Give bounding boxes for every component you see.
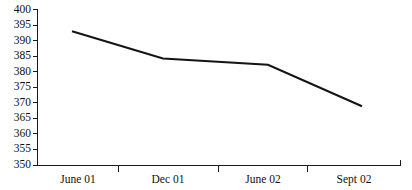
y-tick-label: 360 bbox=[14, 127, 32, 139]
y-tick-label: 385 bbox=[14, 49, 32, 61]
y-tick-label: 350 bbox=[14, 158, 32, 170]
y-tick-labels: 400 395 390 385 380 375 370 365 360 355 … bbox=[14, 3, 32, 170]
y-tick-label: 390 bbox=[14, 34, 32, 46]
y-tick-label: 370 bbox=[14, 96, 32, 108]
y-tick-label: 375 bbox=[14, 80, 32, 92]
y-tick-label: 400 bbox=[14, 3, 32, 15]
x-tick-label: Sept 02 bbox=[337, 173, 372, 186]
chart-canvas: 400 395 390 385 380 375 370 365 360 355 … bbox=[0, 0, 412, 190]
x-tick-label: Dec 01 bbox=[152, 173, 185, 185]
y-tick-label: 355 bbox=[14, 142, 32, 154]
y-tick-label: 380 bbox=[14, 65, 32, 77]
chart-background bbox=[0, 0, 412, 190]
x-tick-label: June 02 bbox=[245, 173, 281, 185]
y-tick-label: 365 bbox=[14, 111, 32, 123]
line-chart: 400 395 390 385 380 375 370 365 360 355 … bbox=[0, 0, 412, 190]
y-tick-label: 395 bbox=[14, 18, 32, 30]
x-tick-label: June 01 bbox=[60, 173, 96, 185]
